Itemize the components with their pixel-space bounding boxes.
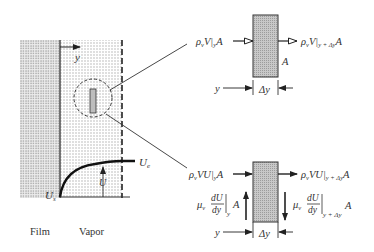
- momentum-element-block: [253, 162, 278, 222]
- svg-text:dU: dU: [307, 193, 320, 203]
- momentum-outflow-label: ρvVU|y + ΔyA: [300, 169, 350, 181]
- svg-text:μv: μv: [292, 199, 301, 211]
- vapor-label: Vapor: [79, 226, 105, 237]
- film-region: [20, 40, 60, 198]
- shear-left-label: μv dU dy y A: [196, 193, 240, 218]
- momentum-inflow-label: ρvVU|yA: [188, 169, 224, 181]
- edge-velocity-label: Ue: [139, 156, 150, 170]
- film-label: Film: [30, 226, 50, 237]
- svg-text:y + Δy: y + Δy: [322, 211, 342, 219]
- momentum-width-label: Δy: [258, 228, 270, 239]
- diagram-canvas: y U Ue Us Film Vapor ρvV|yA ρvV|y + ΔyA: [0, 0, 374, 252]
- control-volume-element: [90, 89, 96, 113]
- mass-inflow-label: ρvV|yA: [195, 36, 223, 48]
- mass-element-block: [253, 15, 278, 77]
- svg-text:A: A: [232, 199, 240, 210]
- film-vapor-panel: y U Ue Us Film Vapor: [20, 40, 187, 237]
- y-axis-label: y: [74, 51, 80, 63]
- momentum-balance-element: ρvVU|yA ρvVU|y + ΔyA μv dU dy y A μv dU …: [188, 162, 352, 239]
- mass-balance-element: ρvV|yA ρvV|y + ΔyA A y Δy: [195, 15, 342, 95]
- mass-width-label: Δy: [258, 84, 270, 95]
- local-velocity-label: U: [99, 177, 107, 188]
- svg-text:A: A: [344, 200, 352, 211]
- svg-text:μv: μv: [196, 199, 205, 211]
- momentum-position-label: y: [214, 227, 220, 238]
- svg-text:dU: dU: [211, 193, 224, 203]
- svg-text:dy: dy: [308, 205, 318, 215]
- svg-text:dy: dy: [212, 205, 222, 215]
- mass-area-label: A: [281, 56, 289, 67]
- shear-right-label: μv dU dy y + Δy A: [292, 193, 352, 219]
- svg-text:y: y: [226, 210, 231, 218]
- mass-outflow-label: ρvV|y + ΔyA: [300, 36, 342, 48]
- mass-position-label: y: [214, 83, 220, 94]
